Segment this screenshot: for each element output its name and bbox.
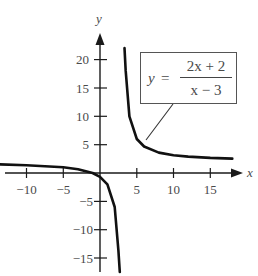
x-tick-label: 5: [134, 182, 141, 197]
x-tick-label: 15: [204, 182, 217, 197]
y-tick-label: −15: [73, 251, 93, 266]
x-tick-label: −10: [16, 182, 36, 197]
x-tick-label: −5: [56, 182, 70, 197]
equation-equals: =: [161, 70, 169, 86]
y-tick-label: 20: [76, 52, 89, 67]
y-tick-label: 15: [76, 81, 89, 96]
rational-function-graph: x y −10 −5 5 10 15 20 15 10 5 −5 −10 −15…: [0, 0, 258, 276]
y-tick-label: 10: [76, 109, 89, 124]
equation-denominator: x − 3: [191, 82, 222, 98]
x-axis-label: x: [246, 165, 253, 180]
equation-lhs: y: [146, 70, 155, 86]
x-tick-label: 10: [167, 182, 180, 197]
equation-numerator: 2x + 2: [187, 58, 225, 74]
annotation-leader-line: [146, 104, 173, 140]
y-tick-label: −5: [79, 194, 93, 209]
y-tick-label: −10: [73, 222, 93, 237]
y-axis-arrow-icon: [96, 33, 105, 45]
y-axis-label: y: [94, 11, 102, 26]
y-tick-label: 5: [83, 137, 90, 152]
x-axis-arrow-icon: [231, 169, 243, 178]
left-branch-curve: [0, 164, 120, 272]
